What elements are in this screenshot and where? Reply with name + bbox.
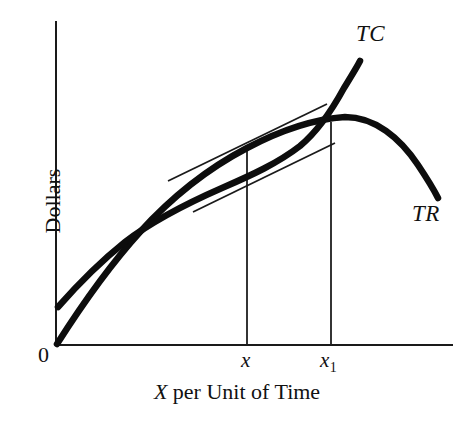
chart-plot-area [0, 0, 474, 422]
tangent-line-to-tc [193, 143, 335, 212]
x-axis-title-variable: X [154, 379, 167, 404]
y-axis-title: Dollars [42, 141, 64, 261]
figure-container: TC TR 0 x x1 Dollars X per Unit of Time [0, 0, 474, 422]
total-revenue-label: TR [412, 202, 440, 225]
origin-label: 0 [38, 344, 49, 366]
total-cost-label: TC [356, 22, 385, 45]
x-axis-title-rest: per Unit of Time [167, 379, 320, 404]
total-cost-curve [58, 61, 360, 307]
x1-tick-label: x1 [320, 350, 337, 375]
x1-tick-base: x [320, 348, 329, 372]
x1-tick-subscript: 1 [330, 360, 337, 375]
x-axis-title: X per Unit of Time [0, 381, 474, 403]
x-tick-label: x [241, 350, 250, 371]
